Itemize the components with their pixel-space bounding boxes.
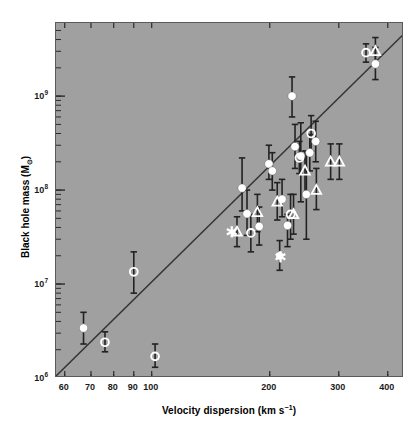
- axis-ticks: [56, 23, 388, 377]
- marker-filled-circle: [79, 324, 87, 332]
- x-axis-title-main: Velocity dispersion: [162, 405, 255, 416]
- y-tick-mantissa: 10: [34, 185, 44, 195]
- x-axis-unit-close: ): [293, 405, 296, 416]
- x-axis-unit-exponent: −1: [284, 404, 292, 411]
- x-tick-label-90: 90: [128, 382, 138, 392]
- marker-filled-circle: [302, 190, 310, 198]
- y-tick-mantissa: 10: [34, 279, 44, 289]
- x-tick-label-300: 300: [330, 382, 345, 392]
- y-tick-mantissa: 10: [34, 373, 44, 383]
- x-tick-label-400: 400: [379, 382, 394, 392]
- error-bar: [152, 344, 158, 367]
- x-tick-label-100: 100: [143, 382, 158, 392]
- y-tick-exponent: 9: [44, 89, 48, 96]
- y-tick-exponent: 6: [44, 371, 48, 378]
- y-axis-title-close: ): [20, 156, 31, 159]
- marker-filled-circle: [238, 184, 246, 192]
- marker-filled-circle: [255, 222, 263, 230]
- x-tick-label-80: 80: [108, 382, 118, 392]
- y-tick-mantissa: 10: [34, 91, 44, 101]
- x-tick-label-200: 200: [261, 382, 276, 392]
- plot-svg: [56, 23, 403, 377]
- y-tick-exponent: 7: [44, 277, 48, 284]
- figure-container: 60708090100200300400 106107108109 Veloci…: [0, 0, 420, 430]
- error-bar: [248, 214, 254, 251]
- x-axis-title-unit: (km s−1): [258, 405, 296, 416]
- marker-filled-circle: [288, 92, 296, 100]
- y-axis-title: Black hole mass (M⊙): [20, 92, 34, 322]
- x-tick-label-60: 60: [59, 382, 69, 392]
- error-bar: [284, 214, 290, 246]
- data-markers: [79, 46, 380, 360]
- marker-filled-circle: [268, 167, 276, 175]
- x-axis-title: Velocity dispersion (km s−1): [55, 404, 403, 416]
- marker-filled-circle: [243, 210, 251, 218]
- y-tick-exponent: 8: [44, 183, 48, 190]
- x-tick-label-70: 70: [85, 382, 95, 392]
- marker-filled-circle: [306, 148, 314, 156]
- y-tick-label-1e6: 106: [18, 371, 48, 383]
- x-axis-unit-open: (km s: [258, 405, 285, 416]
- error-bars: [80, 38, 378, 368]
- y-axis-title-main: Black hole mass (M: [20, 165, 31, 258]
- error-bar: [102, 332, 108, 352]
- error-bar: [131, 252, 137, 293]
- error-bar: [363, 44, 369, 62]
- y-axis-title-sub: ⊙: [26, 159, 33, 165]
- marker-filled-circle: [312, 137, 320, 145]
- fit-line: [56, 34, 403, 376]
- plot-area: [55, 22, 403, 377]
- marker-filled-circle: [371, 60, 379, 68]
- marker-filled-circle: [283, 221, 291, 229]
- marker-filled-circle: [291, 142, 299, 150]
